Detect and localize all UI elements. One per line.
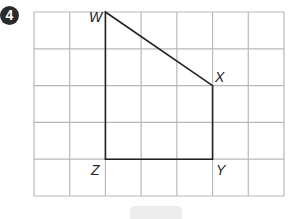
bottom-tab-handle[interactable] <box>130 206 182 219</box>
vertex-label-w: W <box>89 10 102 24</box>
vertex-label-y: Y <box>216 163 225 177</box>
grid-lines <box>34 12 284 196</box>
grid-diagram <box>0 0 301 219</box>
vertex-label-z: Z <box>91 163 100 177</box>
vertex-label-x: X <box>215 70 224 84</box>
